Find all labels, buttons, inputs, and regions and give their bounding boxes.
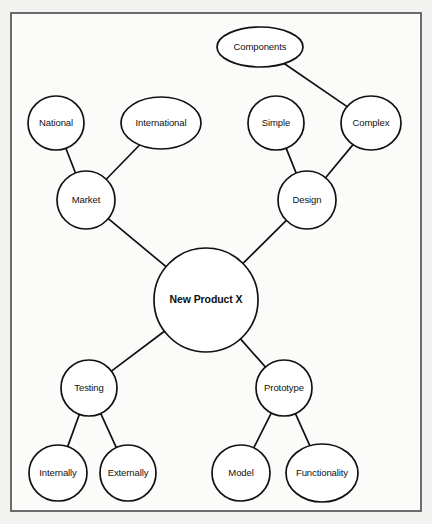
node-label-international: International [136,117,187,128]
node-market[interactable]: Market [57,171,115,229]
node-label-market: Market [72,194,101,205]
node-new-product-x[interactable]: New Product X [154,248,258,352]
node-label-model: Model [228,467,253,478]
node-label-testing: Testing [74,382,103,393]
node-label-design: Design [293,194,322,205]
diagram-canvas: ComponentsNationalInternationalSimpleCom… [0,0,432,524]
node-simple[interactable]: Simple [248,96,304,150]
node-functionality[interactable]: Functionality [286,444,358,502]
node-internally[interactable]: Internally [29,445,87,501]
mind-map-diagram: ComponentsNationalInternationalSimpleCom… [0,0,432,524]
node-components[interactable]: Components [217,27,303,67]
node-label-components: Components [234,41,287,52]
node-national[interactable]: National [28,96,84,150]
node-label-internally: Internally [39,467,77,478]
node-complex[interactable]: Complex [341,96,401,150]
node-label-prototype: Prototype [264,382,304,393]
node-externally[interactable]: Externally [100,445,156,501]
node-label-simple: Simple [262,117,290,128]
node-label-new-product-x: New Product X [170,293,243,305]
node-design[interactable]: Design [278,171,336,229]
node-label-national: National [39,117,73,128]
node-international[interactable]: International [121,97,201,149]
node-label-functionality: Functionality [296,467,348,478]
node-label-complex: Complex [353,117,390,128]
node-label-externally: Externally [108,467,149,478]
node-prototype[interactable]: Prototype [256,360,312,416]
node-testing[interactable]: Testing [61,360,117,416]
node-model[interactable]: Model [212,445,270,501]
